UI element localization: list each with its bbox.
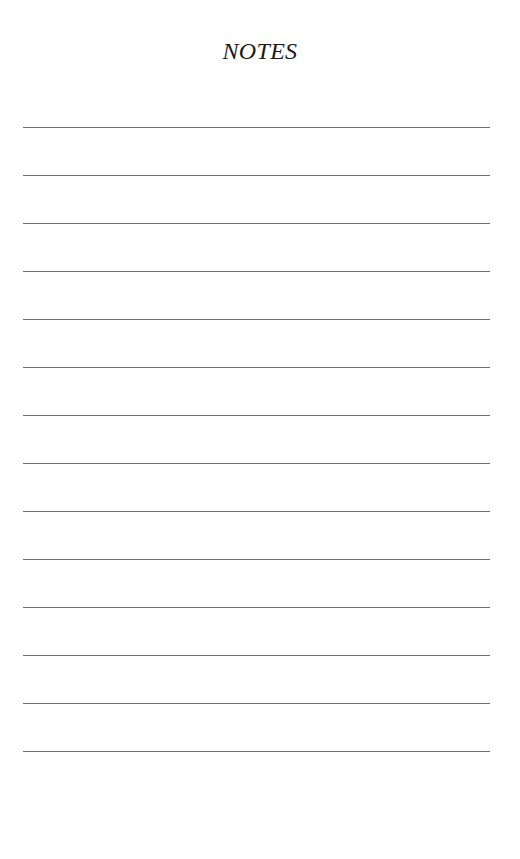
ruled-lines bbox=[23, 127, 490, 799]
ruled-line-7 bbox=[23, 415, 490, 463]
ruled-line-5 bbox=[23, 319, 490, 367]
ruled-line-9 bbox=[23, 511, 490, 559]
ruled-line-2 bbox=[23, 175, 490, 223]
ruled-line-12 bbox=[23, 655, 490, 703]
ruled-line-1 bbox=[23, 127, 490, 175]
ruled-line-3 bbox=[23, 223, 490, 271]
ruled-line-6 bbox=[23, 367, 490, 415]
ruled-line-4 bbox=[23, 271, 490, 319]
page-title: NOTES bbox=[0, 38, 520, 65]
ruled-line-13 bbox=[23, 703, 490, 751]
ruled-line-14 bbox=[23, 751, 490, 799]
ruled-line-10 bbox=[23, 559, 490, 607]
ruled-line-11 bbox=[23, 607, 490, 655]
ruled-line-8 bbox=[23, 463, 490, 511]
